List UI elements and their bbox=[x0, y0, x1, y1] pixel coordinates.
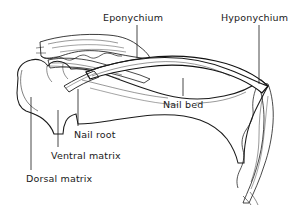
label-eponychium: Eponychium bbox=[103, 12, 163, 23]
label-eponychium-text: Eponychium bbox=[103, 12, 163, 23]
label-leader-lines bbox=[31, 25, 259, 170]
label-nail-bed-text: Nail bed bbox=[163, 99, 203, 110]
label-ventral-matrix-text: Ventral matrix bbox=[51, 150, 121, 161]
label-dorsal-matrix-text: Dorsal matrix bbox=[26, 173, 92, 184]
label-dorsal-matrix: Dorsal matrix bbox=[26, 173, 92, 184]
claw-distal-wall bbox=[237, 82, 273, 205]
proximal-nail-fold bbox=[36, 34, 150, 60]
label-nail-root: Nail root bbox=[74, 129, 116, 140]
label-ventral-matrix: Ventral matrix bbox=[51, 150, 121, 161]
nail-anatomy-figure: Eponychium Hyponychium Nail bed Nail roo… bbox=[0, 0, 305, 205]
label-nail-root-text: Nail root bbox=[74, 129, 116, 140]
label-hyponychium: Hyponychium bbox=[221, 12, 288, 23]
label-nail-bed: Nail bed bbox=[163, 99, 203, 110]
label-hyponychium-text: Hyponychium bbox=[221, 12, 288, 23]
